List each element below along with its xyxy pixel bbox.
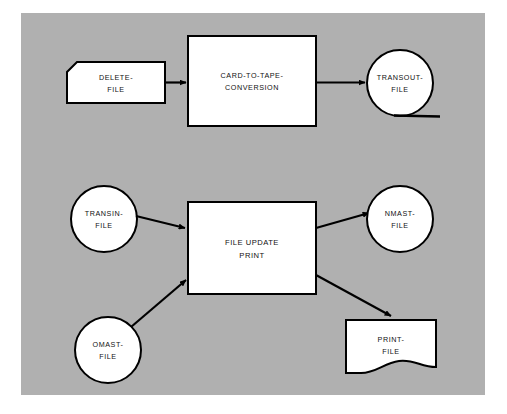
node-delete-file[interactable]: DELETE- FILE [67,62,165,103]
punched-card-icon [67,62,165,103]
transin-file-label-line2: FILE [95,221,112,230]
file-update-print-label-line1: FILE UPDATE [225,238,279,247]
conversion-label-line1: CARD-TO-TAPE- [221,71,284,80]
transout-file-label-line1: TRANSOUT- [377,73,424,82]
node-print-file[interactable]: PRINT- FILE [346,320,436,373]
file-update-print-label-line2: PRINT [239,251,264,260]
connector-update-to-print [316,275,391,316]
node-nmast-file[interactable]: NMAST- FILE [367,186,433,252]
print-file-label-line1: PRINT- [378,335,405,344]
nmast-file-label-line2: FILE [391,221,408,230]
conversion-label-line2: CONVERSION [225,83,279,92]
node-transout-file[interactable]: TRANSOUT- FILE [367,50,440,117]
delete-file-label-line2: FILE [107,85,124,94]
omast-file-label-line2: FILE [99,352,116,361]
magnetic-tape-icon [367,50,433,116]
magnetic-tape-tangent-icon [394,116,440,117]
omast-file-label-line1: OMAST- [93,340,124,349]
node-card-to-tape-conversion[interactable]: CARD-TO-TAPE- CONVERSION [188,36,316,126]
screenshot-root: DELETE- FILE CARD-TO-TAPE- CONVERSION TR… [0,0,507,414]
nmast-file-label-line1: NMAST- [385,209,416,218]
node-transin-file[interactable]: TRANSIN- FILE [71,186,137,252]
system-flowchart: DELETE- FILE CARD-TO-TAPE- CONVERSION TR… [0,0,507,414]
magnetic-tape-icon [367,186,433,252]
transin-file-label-line1: TRANSIN- [85,209,123,218]
print-file-label-line2: FILE [382,347,399,356]
connector-update-to-nmast [316,213,369,228]
node-file-update-print[interactable]: FILE UPDATE PRINT [188,202,316,294]
connector-transin-to-update [136,216,185,228]
process-box-icon [188,36,316,126]
process-box-icon [188,202,316,294]
connector-omast-to-update [131,280,186,327]
magnetic-tape-icon [71,186,137,252]
transout-file-label-line2: FILE [391,85,408,94]
delete-file-label-line1: DELETE- [99,73,133,82]
